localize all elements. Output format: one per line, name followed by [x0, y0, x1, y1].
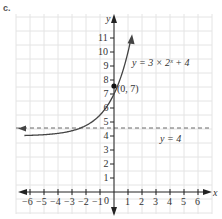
y-tick-label: 3 — [104, 145, 109, 155]
y-tick-label: 6 — [104, 103, 109, 113]
y-axis-arrow-up — [111, 14, 117, 23]
x-tick-label: −3 — [64, 197, 75, 207]
chart-plot-area — [0, 0, 222, 219]
x-tick-label: −6 — [22, 197, 33, 207]
asymptote-label: y = 4 — [160, 134, 181, 144]
x-axis-arrow-left — [18, 189, 27, 195]
x-axis-label: x — [213, 188, 217, 198]
x-tick-label: 3 — [153, 197, 158, 207]
x-tick-label: −1 — [92, 197, 103, 207]
intercept-point — [111, 83, 116, 88]
x-tick-label: 2 — [139, 197, 144, 207]
x-tick-label: −4 — [50, 197, 61, 207]
y-tick-label: 8 — [104, 75, 109, 85]
curve-arrow-up-icon — [128, 34, 135, 44]
x-axis-arrow-right — [203, 189, 212, 195]
origin-label: 0 — [104, 196, 109, 206]
y-tick-label: 2 — [104, 159, 109, 169]
y-axis-label: y — [106, 14, 110, 24]
y-tick-label: 11 — [98, 33, 108, 43]
x-tick-label: −2 — [78, 197, 89, 207]
y-tick-label: 4 — [104, 131, 109, 141]
y-tick-label: 7 — [104, 89, 109, 99]
y-axis-arrow-down — [111, 207, 117, 216]
x-tick-label: 4 — [167, 197, 172, 207]
curve-equation-label: y = 3 × 2ˣ + 4 — [132, 58, 190, 68]
x-tick-label: 6 — [195, 197, 200, 207]
x-tick-label: 1 — [125, 197, 130, 207]
y-tick-label: 10 — [98, 47, 108, 57]
y-tick-label: 1 — [104, 173, 109, 183]
x-axis — [18, 189, 212, 195]
y-tick-label: 5 — [104, 117, 109, 127]
curve-arrow-left-icon — [18, 126, 26, 132]
y-tick-label: 9 — [104, 61, 109, 71]
intercept-point-label: (0, 7) — [117, 84, 139, 94]
x-tick-label: 5 — [181, 197, 186, 207]
x-tick-label: −5 — [36, 197, 47, 207]
